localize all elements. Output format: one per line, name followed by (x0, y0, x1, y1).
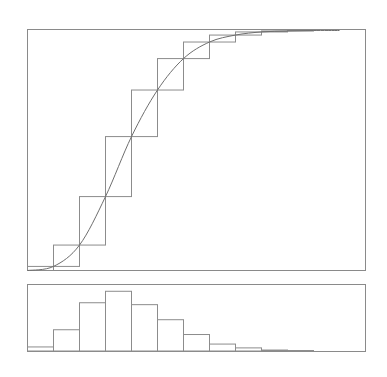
histogram-bar (132, 305, 158, 351)
histogram-bar (236, 348, 262, 351)
cumulative-step (184, 42, 210, 59)
cumulative-plot-frame (28, 30, 366, 271)
histogram-bar (184, 335, 210, 351)
cumulative-steps (28, 31, 314, 271)
cdf-histogram-chart (0, 0, 387, 377)
histogram-bars (28, 291, 314, 351)
histogram-bar (106, 291, 132, 351)
histogram-bar (288, 351, 314, 352)
histogram-bar (210, 344, 236, 351)
cumulative-step (54, 245, 80, 266)
histogram-bar (262, 350, 288, 351)
histogram-bar (158, 320, 184, 351)
histogram-bar (28, 347, 54, 351)
histogram-bar (54, 330, 80, 351)
histogram-bar (80, 303, 106, 351)
cumulative-step (158, 59, 184, 90)
